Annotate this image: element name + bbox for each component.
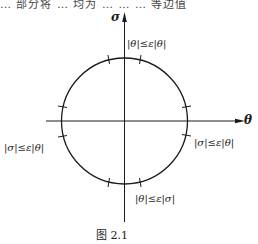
sigma-arrow-icon [122,12,127,22]
region-label-top: |θ|≤ε|θ| [127,38,166,49]
sigma-axis-label: σ [111,10,120,24]
region-label-left: |σ|≤ε|θ| [4,142,44,153]
circle-diagram [0,0,258,244]
figure-caption: 图 2.1 [96,226,128,242]
theta-axis-label: θ [244,113,252,127]
region-label-right: |σ|≤ε|θ| [194,137,234,148]
region-label-bottom: |θ|≤ε|σ| [135,193,175,204]
